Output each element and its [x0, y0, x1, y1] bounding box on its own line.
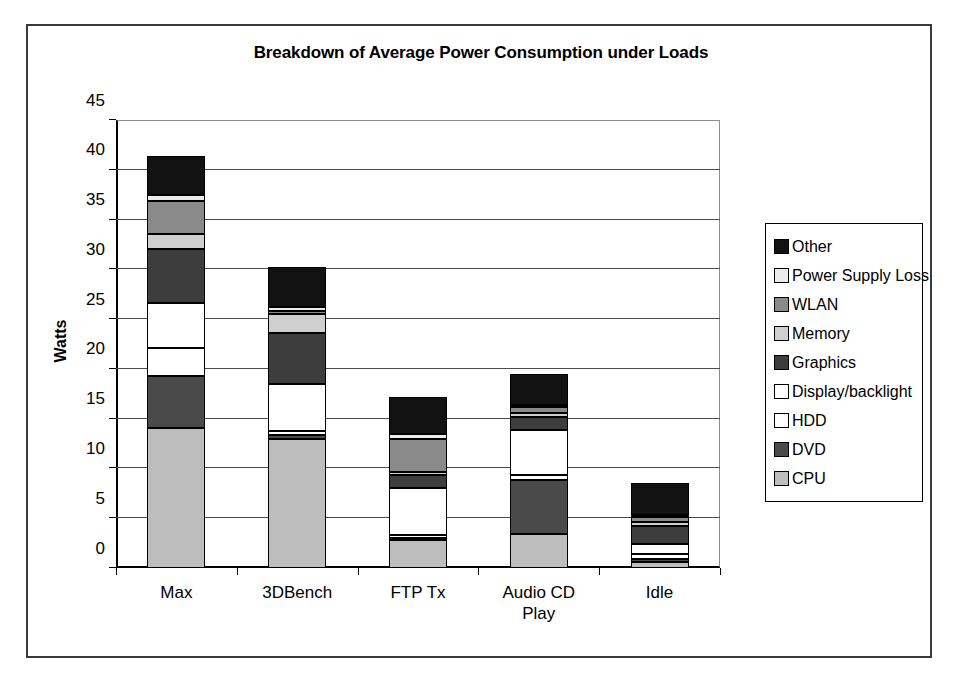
- legend-swatch-icon: [774, 297, 789, 312]
- y-tick-label: 40: [86, 140, 105, 160]
- legend-swatch-icon: [774, 355, 789, 370]
- bar-group[interactable]: Idle: [599, 120, 720, 568]
- legend-swatch-icon: [774, 268, 789, 283]
- y-tick-mark: [109, 418, 116, 419]
- bar-segment-hdd[interactable]: [631, 554, 689, 559]
- bar-segment-memory[interactable]: [268, 314, 326, 333]
- bar-segment-dvd[interactable]: [510, 480, 568, 534]
- bar-segment-graphics[interactable]: [268, 333, 326, 384]
- bar-segment-hdd[interactable]: [510, 475, 568, 480]
- x-tick-mark: [237, 568, 238, 575]
- plot-area-wrapper: 051015202530354045 Max3DBenchFTP TxAudio…: [116, 120, 720, 568]
- bar-segment-power-supply-loss[interactable]: [631, 515, 689, 517]
- legend-item-power-supply-loss[interactable]: Power Supply Loss: [774, 261, 916, 290]
- bar-group[interactable]: Max: [116, 120, 237, 568]
- y-tick-label: 45: [86, 91, 105, 111]
- bar-segment-wlan[interactable]: [510, 407, 568, 413]
- legend-label: Power Supply Loss: [792, 267, 929, 285]
- x-axis-label-line: 3DBench: [232, 582, 362, 603]
- bar-segment-power-supply-loss[interactable]: [147, 195, 205, 201]
- legend-item-hdd[interactable]: HDD: [774, 406, 916, 435]
- legend-swatch-icon: [774, 239, 789, 254]
- bar-segment-graphics[interactable]: [389, 475, 447, 488]
- bar-segment-other[interactable]: [147, 156, 205, 195]
- bar-segment-display-backlight[interactable]: [389, 488, 447, 535]
- bar-group[interactable]: 3DBench: [237, 120, 358, 568]
- bar-group[interactable]: FTP Tx: [358, 120, 479, 568]
- y-tick-mark: [109, 219, 116, 220]
- bar-segment-power-supply-loss[interactable]: [268, 307, 326, 311]
- legend-item-cpu[interactable]: CPU: [774, 464, 916, 493]
- legend-item-display-backlight[interactable]: Display/backlight: [774, 377, 916, 406]
- bar-segment-hdd[interactable]: [268, 431, 326, 435]
- bar-segment-dvd[interactable]: [268, 435, 326, 439]
- bar-segment-other[interactable]: [268, 267, 326, 307]
- legend-swatch-icon: [774, 326, 789, 341]
- bar-segment-power-supply-loss[interactable]: [389, 434, 447, 439]
- y-tick-mark: [109, 318, 116, 319]
- bar-segment-memory[interactable]: [147, 234, 205, 250]
- x-axis-label-line: Play: [474, 603, 604, 624]
- x-axis-label-line: FTP Tx: [353, 582, 483, 603]
- legend-item-memory[interactable]: Memory: [774, 319, 916, 348]
- y-tick-mark: [109, 567, 116, 568]
- bar-segment-wlan[interactable]: [631, 517, 689, 522]
- bar-segment-display-backlight[interactable]: [147, 303, 205, 348]
- bar-segment-graphics[interactable]: [631, 526, 689, 544]
- bar-segment-dvd[interactable]: [389, 538, 447, 540]
- legend-item-dvd[interactable]: DVD: [774, 435, 916, 464]
- bar-segment-cpu[interactable]: [268, 439, 326, 568]
- bar-segment-memory[interactable]: [631, 522, 689, 526]
- chart-title: Breakdown of Average Power Consumption u…: [28, 43, 934, 63]
- legend-label: DVD: [792, 441, 826, 459]
- x-tick-mark: [116, 568, 117, 575]
- legend-swatch-icon: [774, 413, 789, 428]
- bar-segment-wlan[interactable]: [268, 311, 326, 314]
- legend-item-other[interactable]: Other: [774, 232, 916, 261]
- bar-segment-power-supply-loss[interactable]: [510, 405, 568, 407]
- bar-segment-other[interactable]: [389, 397, 447, 434]
- legend-swatch-icon: [774, 442, 789, 457]
- bar-segment-cpu[interactable]: [389, 540, 447, 568]
- bar-segment-hdd[interactable]: [389, 535, 447, 538]
- bar-segment-graphics[interactable]: [147, 249, 205, 303]
- bar-group[interactable]: Audio CDPlay: [478, 120, 599, 568]
- bar-segment-hdd[interactable]: [147, 348, 205, 376]
- bar-segment-memory[interactable]: [389, 472, 447, 475]
- x-axis-label: FTP Tx: [353, 582, 483, 603]
- bar-segment-cpu[interactable]: [510, 534, 568, 568]
- bar-segment-display-backlight[interactable]: [631, 544, 689, 554]
- bar-segment-display-backlight[interactable]: [268, 384, 326, 431]
- legend-label: CPU: [792, 470, 826, 488]
- legend-label: Other: [792, 238, 832, 256]
- legend-item-graphics[interactable]: Graphics: [774, 348, 916, 377]
- chart-frame: Breakdown of Average Power Consumption u…: [26, 24, 932, 658]
- y-tick-label: 0: [96, 539, 105, 559]
- bar-segment-other[interactable]: [510, 374, 568, 405]
- x-axis-label-line: Max: [111, 582, 241, 603]
- bar-segment-graphics[interactable]: [510, 417, 568, 430]
- bar-segment-wlan[interactable]: [147, 201, 205, 234]
- y-tick-mark: [109, 467, 116, 468]
- bar-segment-display-backlight[interactable]: [510, 430, 568, 476]
- y-tick-mark: [109, 119, 116, 120]
- bar-segment-dvd[interactable]: [631, 559, 689, 562]
- legend-item-wlan[interactable]: WLAN: [774, 290, 916, 319]
- y-tick-mark: [109, 368, 116, 369]
- bar-segment-memory[interactable]: [510, 413, 568, 417]
- x-tick-mark: [358, 568, 359, 575]
- x-tick-mark: [720, 568, 721, 575]
- bar-segment-other[interactable]: [631, 483, 689, 515]
- bar-segment-cpu[interactable]: [631, 562, 689, 568]
- bar-segment-dvd[interactable]: [147, 376, 205, 428]
- x-axis-label-line: Idle: [595, 582, 725, 603]
- bar-segment-wlan[interactable]: [389, 439, 447, 473]
- x-axis-label: Idle: [595, 582, 725, 603]
- legend-swatch-icon: [774, 471, 789, 486]
- legend-label: HDD: [792, 412, 827, 430]
- x-axis-label: Audio CDPlay: [474, 582, 604, 624]
- bar-segment-cpu[interactable]: [147, 428, 205, 568]
- legend-swatch-icon: [774, 384, 789, 399]
- x-axis-label: 3DBench: [232, 582, 362, 603]
- y-tick-label: 10: [86, 439, 105, 459]
